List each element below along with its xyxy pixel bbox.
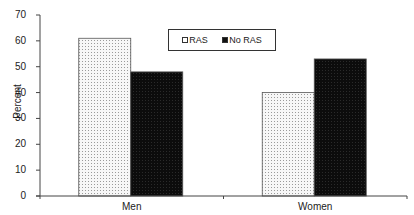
ras-swatch-icon bbox=[182, 37, 188, 43]
y-tick-label: 0 bbox=[6, 190, 26, 201]
y-tick-label: 40 bbox=[6, 87, 26, 98]
y-tick-label: 10 bbox=[6, 164, 26, 175]
bar-women-ras bbox=[262, 93, 314, 196]
bar-chart: Percent 010203040506070 MenWomen RAS No … bbox=[0, 0, 414, 215]
bar-men-ras bbox=[79, 38, 131, 196]
legend-item-no-ras: No RAS bbox=[222, 35, 262, 45]
y-tick-label: 30 bbox=[6, 112, 26, 123]
legend-item-ras: RAS bbox=[182, 35, 208, 45]
category-label-men: Men bbox=[92, 201, 172, 212]
no-ras-swatch-icon bbox=[222, 37, 228, 43]
legend: RAS No RAS bbox=[168, 29, 276, 51]
legend-label-no-ras: No RAS bbox=[229, 35, 262, 45]
bar-women-no-ras bbox=[314, 59, 366, 196]
y-tick-label: 70 bbox=[6, 9, 26, 20]
category-label-women: Women bbox=[275, 201, 355, 212]
bars-group bbox=[79, 38, 367, 196]
y-tick-label: 60 bbox=[6, 35, 26, 46]
y-tick-label: 50 bbox=[6, 61, 26, 72]
legend-label-ras: RAS bbox=[189, 35, 208, 45]
bar-men-no-ras bbox=[131, 72, 183, 196]
y-tick-label: 20 bbox=[6, 138, 26, 149]
